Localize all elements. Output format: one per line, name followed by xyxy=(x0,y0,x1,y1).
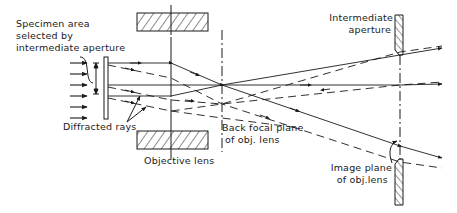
label-image-plane-1: Image plane xyxy=(331,162,392,173)
objective-pole-bottom xyxy=(137,131,208,149)
incident-beam-arrows xyxy=(70,63,87,118)
label-intermediate-2: aperture xyxy=(349,24,392,35)
intermediate-aperture xyxy=(395,15,403,205)
objective-lens xyxy=(137,5,208,163)
label-back-focal-2: of obj. lens xyxy=(225,134,280,145)
diffracted-rays-pointer xyxy=(127,96,146,122)
label-specimen-3: intermediate aperture xyxy=(16,42,125,53)
label-objective-lens: Objective lens xyxy=(144,155,214,166)
objective-pole-top xyxy=(137,13,208,31)
label-specimen-2: selected by xyxy=(16,30,73,41)
aperture-blade-top xyxy=(395,15,403,55)
label-intermediate-1: Intermediate xyxy=(329,12,393,23)
label-specimen-1: Specimen area xyxy=(16,18,90,29)
label-image-plane-2: of obj.lens xyxy=(337,174,388,185)
specimen xyxy=(104,57,108,119)
label-back-focal-1: Back focal plane xyxy=(222,122,304,133)
diffracted-rays xyxy=(108,46,442,168)
label-diffracted-rays: Diffracted rays xyxy=(63,121,137,132)
diffracted-ray-arrows xyxy=(125,68,330,118)
sad-ray-diagram: Specimen area selected by intermediate a… xyxy=(0,0,457,213)
aperture-blade-bottom xyxy=(395,159,403,205)
selected-area-arrow xyxy=(93,63,99,94)
specimen-brace xyxy=(80,57,93,83)
